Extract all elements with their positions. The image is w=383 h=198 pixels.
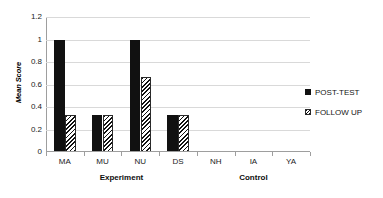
y-axis-tick-label: 0.2 xyxy=(20,126,42,134)
y-axis-tick-label: 0.8 xyxy=(20,58,42,66)
bar-group xyxy=(159,17,197,152)
bar-group xyxy=(84,17,122,152)
legend-item: POST-TEST xyxy=(305,84,383,100)
legend-item-label: POST-TEST xyxy=(315,88,359,97)
bar-post-test xyxy=(130,40,141,153)
bar-group xyxy=(46,17,84,152)
x-axis-group-label: Experiment xyxy=(71,173,171,182)
plot-area xyxy=(46,17,310,152)
bar-group xyxy=(235,17,273,152)
bar-post-test xyxy=(167,115,178,152)
bar-group xyxy=(197,17,235,152)
legend-item-label: FOLLOW UP xyxy=(315,108,362,117)
x-axis-tick xyxy=(84,152,85,156)
x-axis-tick xyxy=(310,152,311,156)
bar-post-test xyxy=(92,115,103,152)
x-axis-tick xyxy=(235,152,236,156)
bar-follow-up xyxy=(141,77,152,152)
legend-item: FOLLOW UP xyxy=(305,104,383,120)
y-axis-tick-label: 0 xyxy=(20,148,42,156)
bar-follow-up xyxy=(103,115,114,152)
bar-chart: Mean Score 00.20.40.60.811.2 MAMUNUDSNHI… xyxy=(0,0,383,198)
x-axis-baseline xyxy=(46,151,310,152)
x-axis-tick xyxy=(159,152,160,156)
y-axis-tick-label: 0.4 xyxy=(20,103,42,111)
hatched-square-marker-icon xyxy=(305,109,311,115)
x-axis-group-label: Control xyxy=(203,173,303,182)
bar-post-test xyxy=(54,40,65,153)
x-axis-tick-label: YA xyxy=(268,157,314,166)
solid-square-marker-icon xyxy=(305,89,311,95)
bar-follow-up xyxy=(178,115,189,152)
y-axis-tick-label: 0.6 xyxy=(20,81,42,89)
x-axis-tick xyxy=(121,152,122,156)
bar-group xyxy=(121,17,159,152)
y-axis-tick-label: 1 xyxy=(20,36,42,44)
chart-legend: POST-TESTFOLLOW UP xyxy=(305,84,383,124)
x-axis-tick xyxy=(197,152,198,156)
y-axis-tick-label: 1.2 xyxy=(20,13,42,21)
x-axis-tick xyxy=(272,152,273,156)
x-axis-tick xyxy=(46,152,47,156)
bar-follow-up xyxy=(65,115,76,152)
